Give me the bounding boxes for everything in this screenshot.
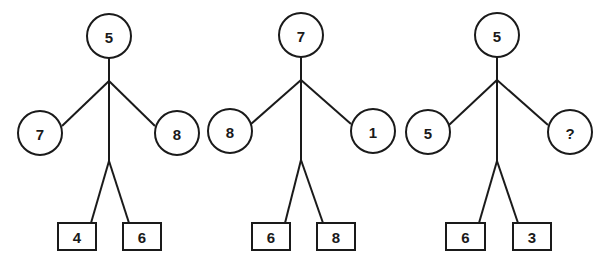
figure-2-edge-to-left-box: [285, 160, 301, 223]
figure-1-root-circle-label: 5: [105, 29, 113, 46]
figure-2-root-circle-label: 7: [297, 28, 305, 45]
figure-2-right-box-label: 8: [332, 229, 340, 246]
figure-2-edge-to-right-circle: [301, 80, 351, 124]
figure-3-left-box-label: 6: [461, 229, 469, 246]
figure-3-root-circle-label: 5: [493, 28, 501, 45]
diagram-canvas: 578467816855?63: [0, 0, 604, 264]
figure-2-left-box-label: 6: [267, 229, 275, 246]
figure-3-edge-to-right-box: [497, 161, 518, 223]
figure-3-right-circle-label: ?: [565, 125, 574, 142]
figure-3-left-circle-label: 5: [424, 125, 432, 142]
figure-3-edge-to-right-circle: [497, 80, 548, 125]
figure-3-edge-to-left-box: [479, 161, 497, 223]
figure-1-edge-to-right-circle: [109, 81, 155, 126]
figure-1-edge-to-left-circle: [62, 81, 109, 126]
figure-1-edge-to-right-box: [109, 161, 129, 223]
figure-2-right-circle-label: 1: [369, 124, 377, 141]
figure-2: 78168: [208, 13, 395, 250]
figure-3: 55?63: [406, 13, 592, 250]
figure-2-edge-to-right-box: [301, 160, 323, 223]
figure-2-edge-to-left-circle: [251, 80, 301, 124]
figure-2-left-circle-label: 8: [226, 124, 234, 141]
figure-1-left-circle-label: 7: [36, 126, 44, 143]
figure-1-right-box-label: 6: [138, 229, 146, 246]
figure-1-edge-to-left-box: [91, 161, 109, 223]
figure-3-right-box-label: 3: [528, 229, 536, 246]
figure-1: 57846: [18, 14, 199, 250]
figure-3-edge-to-left-circle: [449, 80, 497, 125]
diagram-svg: 578467816855?63: [0, 0, 604, 264]
figure-1-left-box-label: 4: [73, 229, 82, 246]
figure-1-right-circle-label: 8: [173, 126, 181, 143]
